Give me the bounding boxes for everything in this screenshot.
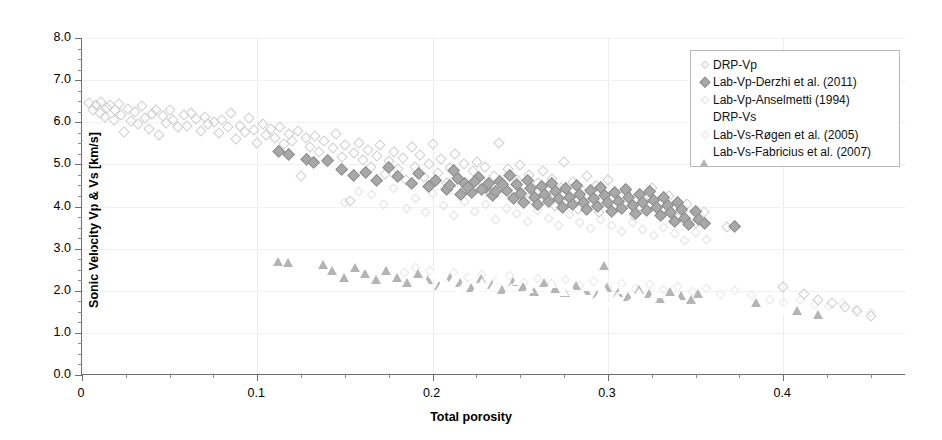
data-point	[558, 203, 567, 212]
data-point	[572, 181, 581, 190]
data-point	[624, 193, 633, 202]
legend-item-lab-vs-fabricius-et-al-2007[interactable]: Lab-Vs-Fabricius et al. (2007)	[696, 144, 892, 162]
data-point	[337, 165, 346, 174]
y-axis-tick	[75, 80, 82, 81]
data-point	[565, 193, 574, 202]
data-point	[673, 198, 682, 207]
y-axis-tick	[75, 375, 82, 376]
data-point	[519, 198, 528, 207]
legend-marker-diamond-filled-icon	[696, 75, 713, 90]
y-axis-tick-label: 7.0	[25, 73, 71, 86]
data-point	[600, 191, 609, 200]
data-point	[621, 185, 630, 194]
x-axis-minor-tick	[301, 374, 302, 378]
data-point	[617, 204, 626, 213]
x-axis-minor-tick	[345, 374, 346, 378]
x-axis-tick	[433, 374, 434, 381]
data-point	[730, 222, 739, 231]
legend-item-lab-vs-r-gen-et-al-2005[interactable]: Lab-Vs-Røgen et al. (2005)	[696, 126, 892, 144]
y-axis-tick	[75, 333, 82, 334]
data-point	[691, 207, 700, 216]
data-point	[284, 150, 293, 159]
data-point	[460, 179, 469, 188]
data-point	[414, 169, 423, 178]
data-point	[274, 147, 283, 156]
y-axis-tick-label: 2.0	[25, 284, 71, 297]
data-point	[523, 176, 532, 185]
data-point	[407, 179, 416, 188]
data-point	[561, 184, 570, 193]
x-axis-minor-tick	[126, 374, 127, 378]
y-axis-tick	[75, 122, 82, 123]
data-point	[635, 190, 644, 199]
legend-marker-diamond-open-icon	[696, 57, 713, 72]
data-point	[677, 205, 686, 214]
data-point	[442, 185, 451, 194]
data-point	[575, 190, 584, 199]
x-axis-tick-label: 0.1	[231, 387, 281, 400]
legend-label: Lab-Vp-Anselmetti (1994)	[713, 94, 850, 106]
legend-label: Lab-Vs-Fabricius et al. (2007)	[713, 146, 871, 158]
data-point	[463, 183, 472, 192]
data-point	[512, 180, 521, 189]
data-point	[393, 172, 402, 181]
data-point	[456, 190, 465, 199]
data-point	[516, 189, 525, 198]
data-point	[631, 209, 640, 218]
data-point	[694, 215, 703, 224]
data-point	[607, 207, 616, 216]
x-axis-minor-tick	[564, 374, 565, 378]
legend-label: DRP-Vs	[713, 111, 756, 123]
y-axis-tick	[75, 249, 82, 250]
data-point	[649, 196, 658, 205]
data-point	[628, 201, 637, 210]
data-point	[502, 186, 511, 195]
data-point	[384, 163, 393, 172]
x-axis-minor-tick	[476, 374, 477, 378]
legend-marker-triangle-open-icon	[696, 110, 713, 125]
data-point	[603, 198, 612, 207]
chart-legend: DRP-VpLab-Vp-Derzhi et al. (2011)Lab-Vp-…	[690, 50, 900, 167]
legend-item-lab-vp-derzhi-et-al-2011[interactable]: Lab-Vp-Derzhi et al. (2011)	[696, 74, 892, 92]
y-axis-tick-label: 8.0	[25, 31, 71, 44]
legend-item-drp-vs[interactable]: DRP-Vs	[696, 109, 892, 127]
data-point	[551, 187, 560, 196]
data-point	[610, 188, 619, 197]
x-axis-tick-label: 0.2	[407, 387, 457, 400]
legend-label: Lab-Vp-Derzhi et al. (2011)	[713, 76, 857, 88]
x-axis-minor-tick	[739, 374, 740, 378]
data-point	[544, 197, 553, 206]
data-point	[586, 186, 595, 195]
data-point	[670, 217, 679, 226]
data-point	[533, 200, 542, 209]
data-point	[593, 202, 602, 211]
data-point	[474, 173, 483, 182]
data-point	[638, 198, 647, 207]
x-axis-tick	[608, 374, 609, 381]
y-axis-tick	[75, 164, 82, 165]
data-point	[309, 158, 318, 167]
legend-marker-triangle-filled-icon	[696, 145, 713, 160]
y-axis-tick-label: 3.0	[25, 242, 71, 255]
legend-marker-diamond-open-light-icon	[696, 92, 713, 107]
data-point	[323, 156, 332, 165]
data-point	[509, 194, 518, 203]
x-axis-tick-label: 0	[56, 387, 106, 400]
y-axis-tick-label: 4.0	[25, 200, 71, 213]
data-point	[614, 197, 623, 206]
data-point	[645, 187, 654, 196]
data-point	[481, 183, 490, 192]
data-point	[568, 200, 577, 209]
chart-root: Sonic Velocity Vp & Vs [km/s] Total poro…	[0, 0, 942, 440]
data-point	[453, 174, 462, 183]
data-point	[484, 179, 493, 188]
data-point	[498, 180, 507, 189]
data-point	[554, 194, 563, 203]
data-point	[652, 203, 661, 212]
legend-item-drp-vp[interactable]: DRP-Vp	[696, 56, 892, 74]
legend-item-lab-vp-anselmetti-1994[interactable]: Lab-Vp-Anselmetti (1994)	[696, 91, 892, 109]
data-point	[680, 214, 689, 223]
x-axis-minor-tick	[652, 374, 653, 378]
legend-label: Lab-Vs-Røgen et al. (2005)	[713, 129, 858, 141]
data-point	[424, 182, 433, 191]
